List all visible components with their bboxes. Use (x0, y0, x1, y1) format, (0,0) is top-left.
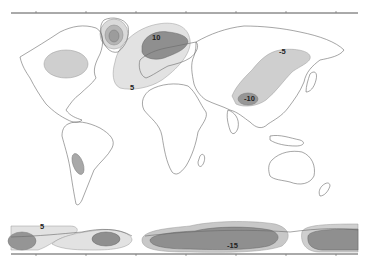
label-southern-ocean-indian: -15 (227, 241, 238, 250)
label-north-atlantic-high: 10 (152, 33, 160, 42)
coast-madagascar (198, 154, 205, 166)
coast-africa (142, 84, 206, 174)
contour-canada-light (44, 50, 88, 78)
label-north-atlantic-outer: 5 (130, 83, 134, 92)
contour-pacific-inner (308, 229, 358, 250)
coast-new-zealand (319, 183, 330, 196)
world-contour-map: 10 5 -5 -10 5 -15 (0, 0, 369, 263)
contour-andes (70, 152, 87, 176)
contour-southern-west-inner (8, 232, 36, 250)
coast-japan (306, 72, 317, 92)
coast-india (227, 110, 238, 134)
top-axis (11, 11, 358, 13)
contour-greenland-inner (109, 30, 119, 42)
coast-australia (269, 151, 315, 184)
contour-regions (8, 19, 358, 252)
bottom-axis (11, 254, 358, 256)
label-siberia-outer: -5 (279, 47, 286, 56)
coast-south-america (62, 122, 113, 205)
label-southern-ocean-west: 5 (40, 222, 44, 231)
contour-antarctic-peninsula-inner (92, 232, 120, 246)
coast-indonesia (270, 135, 303, 146)
label-central-asia-inner: -10 (244, 94, 255, 103)
